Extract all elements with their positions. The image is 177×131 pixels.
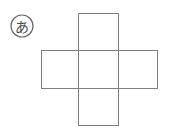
label-badge: あ [11,15,33,37]
vertical-bar-rect [78,13,118,125]
horizontal-bar-rect [41,50,157,88]
label-character: あ [15,19,29,35]
cross-net-figure: あ [0,0,177,131]
figure-canvas: あ [0,0,177,131]
